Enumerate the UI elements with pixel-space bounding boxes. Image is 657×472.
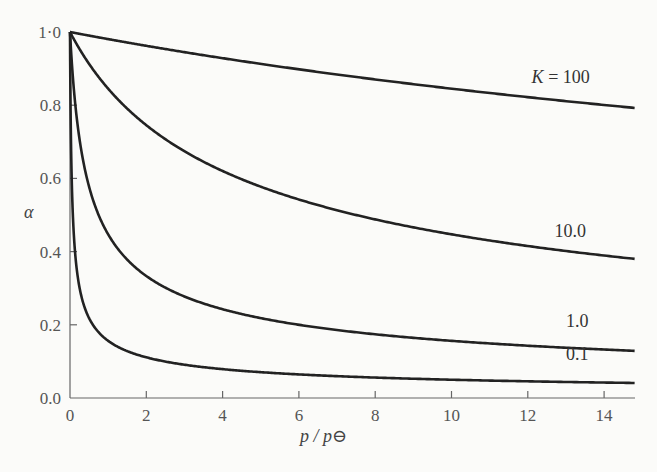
x-tick-label: 14 — [596, 406, 614, 425]
x-tick-label: 10 — [443, 406, 460, 425]
chart: 02468101214 0.00.20.40.60.81·0 K = 10010… — [0, 0, 657, 472]
y-tick-label: 0.8 — [40, 96, 61, 115]
x-tick-label: 4 — [218, 406, 227, 425]
y-axis-title: α — [24, 202, 34, 222]
y-tick-label: 0.6 — [40, 169, 61, 188]
curve-10.0 — [70, 32, 635, 259]
x-ticks: 02468101214 — [66, 391, 613, 425]
x-tick-label: 0 — [66, 406, 75, 425]
x-tick-label: 12 — [519, 406, 536, 425]
x-tick-label: 6 — [295, 406, 304, 425]
y-tick-label: 0.4 — [40, 243, 62, 262]
y-tick-label: 0.0 — [40, 389, 61, 408]
curve-labels: K = 10010.01.00.1 — [531, 67, 590, 363]
x-tick-label: 2 — [142, 406, 151, 425]
y-tick-label: 1·0 — [38, 23, 61, 42]
x-tick-label: 8 — [371, 406, 380, 425]
curve-label: K = 100 — [531, 67, 590, 87]
curve-label: 1.0 — [566, 311, 589, 331]
curve-label: 10.0 — [555, 221, 587, 241]
x-axis-title: p / p⊖ — [298, 426, 347, 446]
curve-label: 0.1 — [566, 344, 589, 364]
y-tick-label: 0.2 — [40, 316, 61, 335]
